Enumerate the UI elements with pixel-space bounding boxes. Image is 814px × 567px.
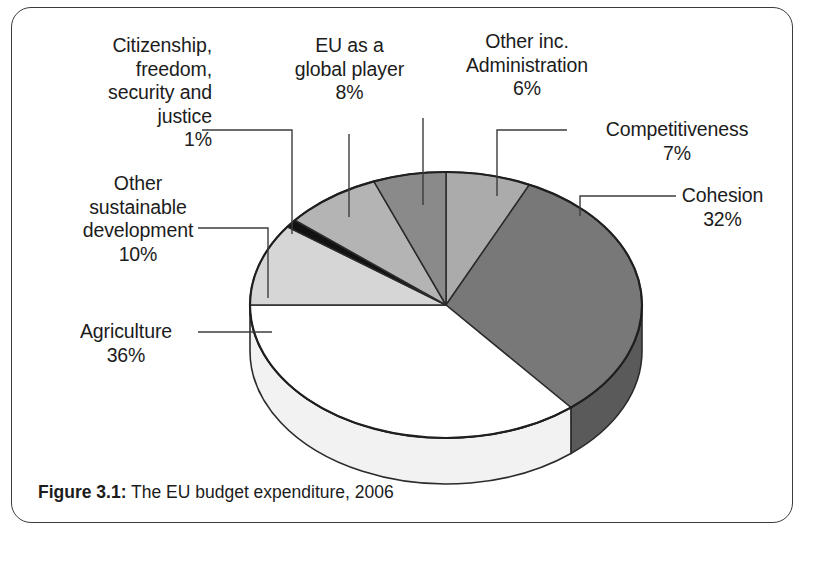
figure-caption: Figure 3.1: The EU budget expenditure, 2… [38,482,394,503]
label-agriculture: Agriculture 36% [50,320,202,367]
label-citizenship: Citizenship, freedom, security and justi… [60,34,212,152]
label-other-admin: Other inc. Administration 6% [432,30,622,101]
label-other-sustainable: Other sustainable development 10% [48,172,228,266]
figure-container: Citizenship, freedom, security and justi… [0,0,814,567]
label-cohesion: Cohesion 32% [660,184,785,231]
label-competitiveness: Competitiveness 7% [572,118,782,165]
caption-label: Figure 3.1: [38,482,127,502]
caption-text: The EU budget expenditure, 2006 [131,482,394,502]
pie-slices-group [250,172,642,484]
label-eu-global-player: EU as a global player 8% [272,34,427,105]
